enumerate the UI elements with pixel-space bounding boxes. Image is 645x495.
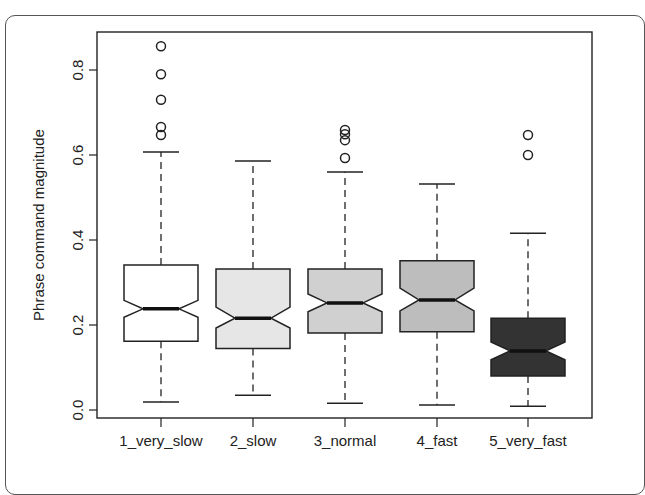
x-tick-label: 4_fast bbox=[417, 432, 459, 449]
y-axis-title: Phrase command magnitude bbox=[30, 129, 47, 321]
y-tick-label: 0.2 bbox=[69, 315, 86, 336]
notched-box bbox=[491, 318, 565, 376]
x-tick-label: 2_slow bbox=[230, 432, 277, 449]
box-3_normal bbox=[308, 125, 382, 403]
outlier-point bbox=[157, 70, 166, 79]
y-tick-label: 0.6 bbox=[69, 145, 86, 166]
y-tick-label: 0.4 bbox=[69, 230, 86, 251]
box-1_very_slow bbox=[124, 42, 198, 402]
x-tick-label: 1_very_slow bbox=[119, 432, 203, 449]
box-2_slow bbox=[216, 161, 290, 395]
y-tick-label: 0.8 bbox=[69, 60, 86, 81]
x-tick-label: 3_normal bbox=[314, 432, 377, 449]
notched-box bbox=[308, 269, 382, 333]
box-4_fast bbox=[400, 184, 474, 405]
outlier-point bbox=[524, 131, 533, 140]
notched-box bbox=[216, 269, 290, 348]
notched-box bbox=[124, 265, 198, 341]
x-tick-label: 5_very_fast bbox=[489, 432, 567, 449]
plot-area bbox=[97, 32, 592, 418]
x-axis: 1_very_slow2_slow3_normal4_fast5_very_fa… bbox=[119, 418, 567, 449]
outlier-point bbox=[157, 95, 166, 104]
outlier-point bbox=[524, 151, 533, 160]
outlier-point bbox=[341, 153, 350, 162]
outlier-point bbox=[157, 42, 166, 51]
y-axis: 0.00.20.40.60.8 bbox=[69, 60, 97, 421]
y-tick-label: 0.0 bbox=[69, 400, 86, 421]
notched-box bbox=[400, 261, 474, 332]
box-5_very_fast bbox=[491, 131, 565, 407]
